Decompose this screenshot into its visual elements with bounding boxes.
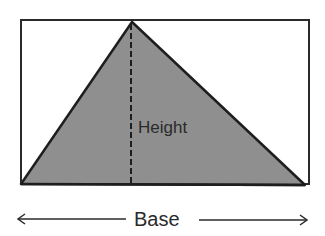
base-line <box>21 184 305 185</box>
base-label: Base <box>134 208 180 230</box>
triangle-area-diagram: Height Base <box>0 0 325 236</box>
height-label: Height <box>138 118 187 137</box>
triangle <box>21 22 305 185</box>
